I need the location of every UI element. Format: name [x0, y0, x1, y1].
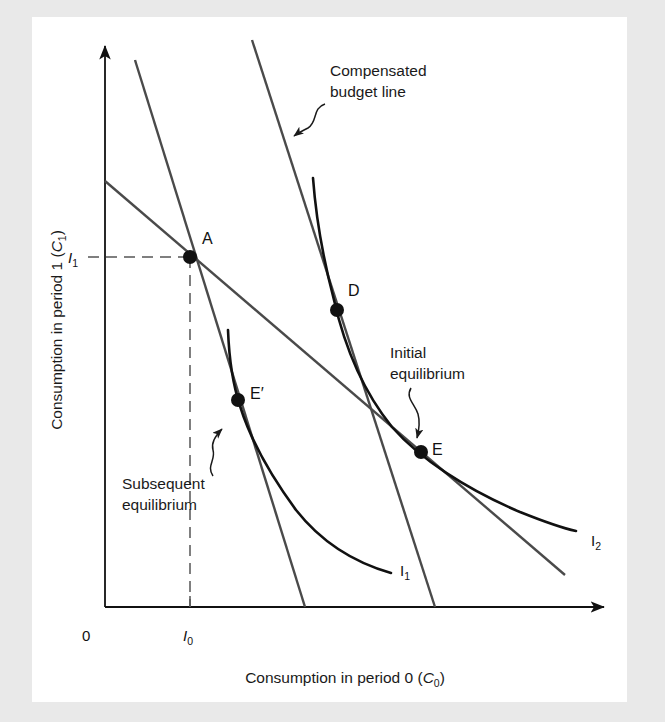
curve-label-i1: I1	[400, 562, 410, 582]
annotation-subsequent-line2: equilibrium	[122, 496, 197, 513]
annotation-subsequent-equilibrium: Subsequent equilibrium	[122, 429, 222, 513]
annotation-initial-line1: Initial	[390, 344, 426, 361]
budget-lines-group	[105, 40, 565, 607]
point-marker-a	[183, 250, 197, 264]
point-label-d: D	[348, 282, 360, 299]
axes-group	[105, 46, 604, 607]
y-axis-title: Consumption in period 1 (C1)	[48, 230, 68, 430]
annotation-subsequent-line1: Subsequent	[122, 475, 205, 492]
annotation-compensated-line2: budget line	[330, 83, 406, 100]
point-marker-d	[330, 303, 344, 317]
origin-label: 0	[82, 627, 90, 644]
y-tick-label-i1: I1	[68, 249, 78, 269]
point-marker-e-prime	[231, 393, 245, 407]
axis-titles-group: Consumption in period 0 (C0) Consumption…	[48, 230, 445, 689]
point-marker-e	[414, 445, 428, 459]
point-label-e-prime: E′	[250, 385, 264, 402]
indifference-curve-i1	[228, 330, 391, 573]
annotation-compensated-arrow-icon	[294, 104, 325, 136]
annotation-compensated-budget-line: Compensated budget line	[294, 62, 427, 136]
annotation-initial-arrow-icon	[409, 388, 419, 438]
curve-labels-group: I1 I2	[400, 532, 601, 582]
annotation-initial-line2: equilibrium	[390, 365, 465, 382]
initial-budget-line	[105, 181, 565, 575]
x-tick-label-i0: I0	[183, 627, 193, 647]
annotation-compensated-line1: Compensated	[330, 62, 427, 79]
indifference-curve-diagram: I1 I2 A D E E′ Compensated budget line I…	[0, 0, 665, 722]
annotation-subsequent-arrow-icon	[210, 429, 222, 476]
point-label-a: A	[202, 230, 213, 247]
curve-label-i2: I2	[591, 532, 601, 552]
new-budget-line	[135, 60, 305, 607]
point-label-e: E	[432, 441, 443, 458]
x-axis-title: Consumption in period 0 (C0)	[245, 669, 445, 689]
annotation-initial-equilibrium: Initial equilibrium	[390, 344, 465, 438]
guide-lines-group	[88, 257, 190, 607]
tick-labels-group: 0 I0 I1	[68, 249, 193, 647]
